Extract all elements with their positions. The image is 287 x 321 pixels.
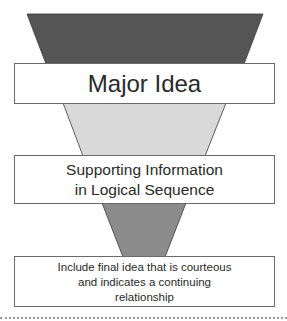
supporting-information-box: Supporting Information in Logical Sequen… [14, 155, 275, 204]
closing-idea-label-line-2: and indicates a continuing [78, 275, 211, 290]
closing-idea-label-line-3: relationship [115, 290, 174, 305]
major-idea-label: Major Idea [88, 70, 201, 98]
supporting-information-label-line-1: Supporting Information [66, 160, 223, 180]
top-wedge [27, 14, 263, 64]
closing-idea-label-line-1: Include final idea that is courteous [58, 260, 232, 275]
supporting-information-label-line-2: in Logical Sequence [75, 180, 215, 200]
bottom-wedge [102, 203, 186, 257]
closing-idea-box: Include final idea that is courteous and… [14, 256, 275, 307]
major-idea-box: Major Idea [14, 63, 275, 104]
middle-wedge [63, 103, 226, 156]
dotted-divider [0, 317, 287, 319]
